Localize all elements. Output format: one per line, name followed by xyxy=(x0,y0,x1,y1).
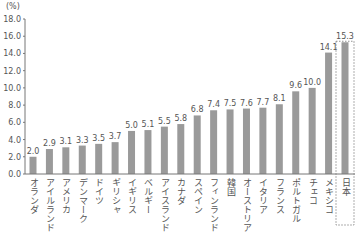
bar xyxy=(30,157,37,174)
value-label: 3.7 xyxy=(109,132,122,141)
value-label: 6.8 xyxy=(191,105,204,114)
x-tick-label: スペイン xyxy=(191,178,203,214)
value-label: 5.1 xyxy=(142,120,155,129)
value-label: 7.5 xyxy=(224,99,237,108)
y-tick-label: 10.0 xyxy=(3,84,21,93)
value-label: 3.5 xyxy=(92,134,105,143)
bar xyxy=(128,131,135,174)
bar xyxy=(194,115,201,174)
value-label: 5.0 xyxy=(125,121,138,130)
x-tick-label: デンマーク xyxy=(76,178,88,223)
x-tick-label: アイルランド xyxy=(43,178,55,232)
bar xyxy=(276,104,283,174)
y-tick-label: 12.0 xyxy=(3,67,21,76)
bar xyxy=(62,147,69,174)
y-tick-label: 4.0 xyxy=(8,136,21,145)
bar xyxy=(292,91,299,174)
y-tick-label: 8.0 xyxy=(8,101,21,110)
bar xyxy=(46,149,53,174)
bar xyxy=(144,130,151,174)
x-tick-label: 日本 xyxy=(339,178,351,196)
bar xyxy=(210,110,217,174)
value-label: 7.7 xyxy=(257,98,270,107)
value-label: 15.3 xyxy=(336,32,354,41)
y-tick-label: 6.0 xyxy=(8,118,21,127)
y-tick-label: 18.0 xyxy=(3,15,21,24)
value-label: 2.0 xyxy=(27,147,40,156)
bars xyxy=(30,42,349,174)
value-labels: 2.02.93.13.33.53.75.05.15.55.86.87.47.57… xyxy=(27,32,354,156)
value-label: 5.5 xyxy=(158,117,171,126)
x-tick-label: ベルギー xyxy=(142,178,154,214)
value-label: 2.9 xyxy=(43,139,56,148)
x-tick-label: フランス xyxy=(273,178,285,214)
x-tick-label: ポルトガル xyxy=(290,178,302,223)
value-label: 10.0 xyxy=(303,78,321,87)
bar xyxy=(79,146,86,174)
bar xyxy=(95,144,102,174)
x-tick-label: オランダ xyxy=(27,178,39,214)
value-label: 3.1 xyxy=(59,137,72,146)
bar xyxy=(177,124,184,174)
x-tick-label: カナダ xyxy=(175,178,187,205)
bar xyxy=(325,53,332,174)
bar xyxy=(309,88,316,174)
x-tick-label: ギリシャ xyxy=(109,178,121,214)
y-tick-label: 14.0 xyxy=(3,49,21,58)
value-label: 8.1 xyxy=(273,94,286,103)
x-tick-label: イギリス xyxy=(126,178,138,214)
y-axis: 0.02.04.06.08.010.012.014.016.018.0 xyxy=(3,15,25,179)
y-tick-label: 16.0 xyxy=(3,32,21,41)
x-tick-label: ドイツ xyxy=(93,178,105,205)
value-label: 7.6 xyxy=(240,99,253,108)
bar xyxy=(227,109,234,174)
bar xyxy=(243,109,250,174)
y-tick-label: 2.0 xyxy=(8,153,21,162)
x-tick-label: イタリア xyxy=(257,178,269,214)
bar xyxy=(342,42,349,174)
value-label: 9.6 xyxy=(289,81,302,90)
value-label: 14.1 xyxy=(320,43,338,52)
x-tick-label: チェコ xyxy=(306,178,318,205)
bar xyxy=(161,127,168,174)
bar xyxy=(112,142,119,174)
value-label: 7.4 xyxy=(207,100,220,109)
x-tick-label: アメリカ xyxy=(60,178,72,214)
bar xyxy=(259,108,266,174)
value-label: 5.8 xyxy=(174,114,187,123)
x-tick-label: メキシコ xyxy=(323,178,335,214)
y-axis-unit-label: (%) xyxy=(6,2,20,11)
value-label: 3.3 xyxy=(76,136,89,145)
x-tick-label: 韓国 xyxy=(224,178,236,196)
x-tick-label: フィンランド xyxy=(208,178,220,232)
y-tick-label: 0.0 xyxy=(8,170,21,179)
x-tick-label: オーストリア xyxy=(240,178,252,232)
x-tick-label: アイスランド xyxy=(158,178,170,232)
